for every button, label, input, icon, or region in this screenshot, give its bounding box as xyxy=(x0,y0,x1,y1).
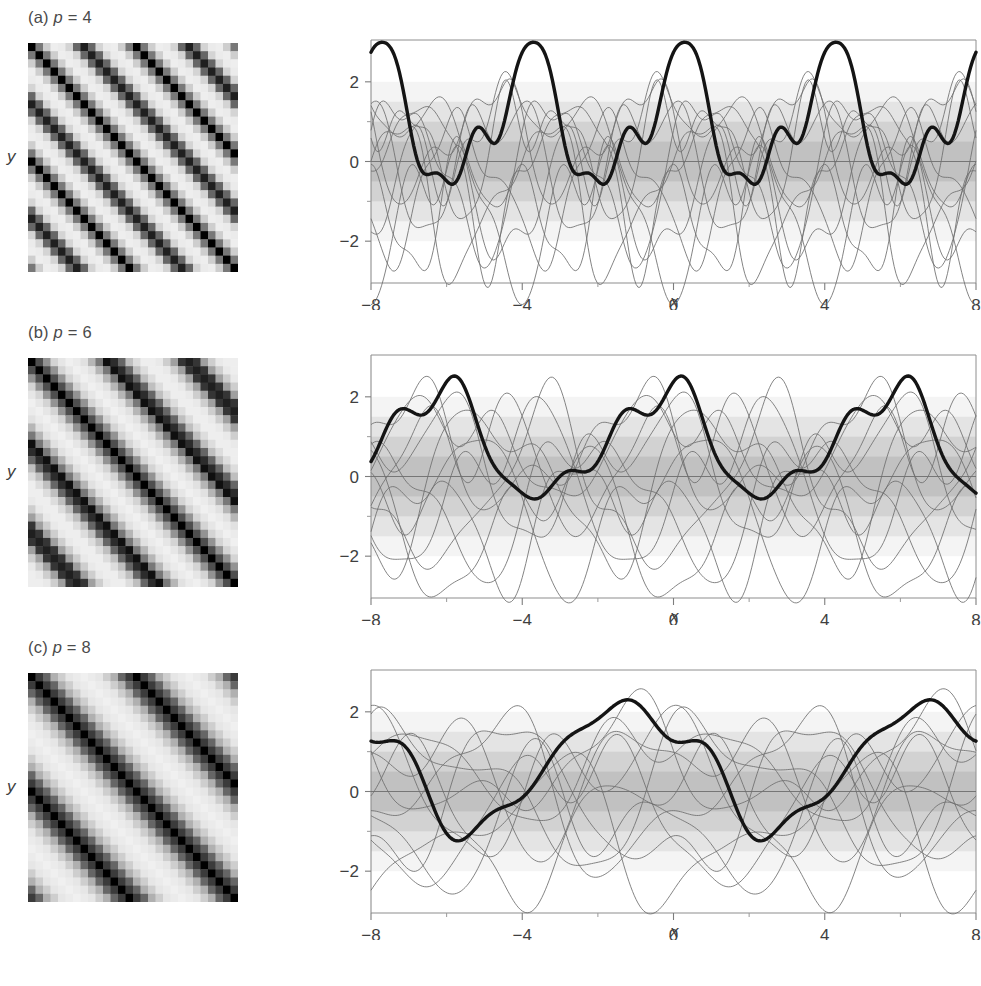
panel-c: (c) p = 8 −202−8−4048 y x xyxy=(0,630,981,945)
svg-text:−2: −2 xyxy=(340,862,359,881)
svg-text:−8: −8 xyxy=(361,926,380,940)
panel-b: (b) p = 6 −202−8−4048 y x xyxy=(0,315,981,630)
svg-text:−4: −4 xyxy=(513,926,532,940)
panel-b-label-value: 6 xyxy=(82,323,91,341)
panel-c-label-value: 8 xyxy=(81,638,90,656)
sample-plot-c: −202−8−4048 xyxy=(300,655,981,940)
panel-b-label-eq: = xyxy=(68,323,78,341)
x-axis-label-c: x xyxy=(670,922,679,942)
panel-a-label-text: (a) xyxy=(28,8,49,26)
x-axis-label-a: x xyxy=(670,292,679,312)
covariance-heatmap-c xyxy=(28,673,238,902)
y-axis-label-b: y xyxy=(7,462,16,482)
panel-c-label-text: (c) xyxy=(28,638,48,656)
sample-plot-a: −202−8−4048 xyxy=(300,25,981,310)
panel-a-label: (a) p = 4 xyxy=(28,8,92,27)
panel-c-label-eq: = xyxy=(67,638,77,656)
y-axis-label-c: y xyxy=(7,777,16,797)
svg-text:−8: −8 xyxy=(361,296,380,310)
sample-plot-b: −202−8−4048 xyxy=(300,340,981,625)
panel-a: (a) p = 4 −202−8−4048 y x xyxy=(0,0,981,315)
svg-text:2: 2 xyxy=(350,703,359,722)
x-axis-label-b: x xyxy=(670,607,679,627)
svg-text:4: 4 xyxy=(820,926,829,940)
svg-text:0: 0 xyxy=(350,468,359,487)
svg-text:−8: −8 xyxy=(361,611,380,625)
panel-b-label-text: (b) xyxy=(28,323,49,341)
svg-text:2: 2 xyxy=(350,388,359,407)
panel-b-label-param: p xyxy=(54,323,63,341)
panel-a-label-value: 4 xyxy=(82,8,91,26)
panel-a-label-param: p xyxy=(54,8,63,26)
covariance-heatmap-b xyxy=(28,358,238,587)
svg-text:4: 4 xyxy=(820,611,829,625)
svg-text:8: 8 xyxy=(971,926,980,940)
svg-text:8: 8 xyxy=(971,611,980,625)
panel-c-label: (c) p = 8 xyxy=(28,638,91,657)
covariance-heatmap-a xyxy=(28,43,238,272)
svg-text:−4: −4 xyxy=(513,611,532,625)
svg-text:0: 0 xyxy=(350,783,359,802)
figure-root: (a) p = 4 −202−8−4048 y x (b) p = 6 −202… xyxy=(0,0,981,986)
panel-a-label-eq: = xyxy=(68,8,78,26)
svg-text:0: 0 xyxy=(350,153,359,172)
svg-text:−2: −2 xyxy=(340,232,359,251)
panel-b-label: (b) p = 6 xyxy=(28,323,92,342)
svg-text:2: 2 xyxy=(350,73,359,92)
y-axis-label-a: y xyxy=(7,147,16,167)
svg-text:−2: −2 xyxy=(340,547,359,566)
panel-c-label-param: p xyxy=(53,638,62,656)
